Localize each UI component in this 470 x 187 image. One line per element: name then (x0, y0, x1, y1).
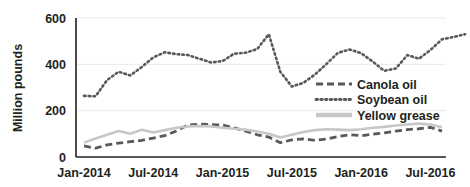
x-tick-label: Jul-2016 (405, 166, 455, 180)
x-tick-label: Jul-2014 (128, 166, 178, 180)
y-tick-label: 600 (45, 12, 66, 26)
x-tick-label: Jul-2015 (267, 166, 317, 180)
y-tick-label: 400 (45, 58, 66, 72)
chart-container: Million pounds 0200400600 Jan-2014Jul-20… (0, 0, 470, 187)
y-tick-label: 0 (59, 151, 66, 165)
y-axis-title: Million pounds (11, 44, 25, 132)
x-tick-label: Jan-2015 (196, 166, 250, 180)
y-tick-label: 200 (45, 104, 66, 118)
legend-label: Soybean oil (357, 93, 427, 107)
x-tick-label: Jan-2016 (334, 166, 388, 180)
x-tick-label: Jan-2014 (57, 166, 111, 180)
line-chart: Million pounds 0200400600 Jan-2014Jul-20… (0, 0, 470, 187)
legend-label: Canola oil (357, 78, 417, 92)
legend-label: Yellow grease (357, 109, 440, 123)
